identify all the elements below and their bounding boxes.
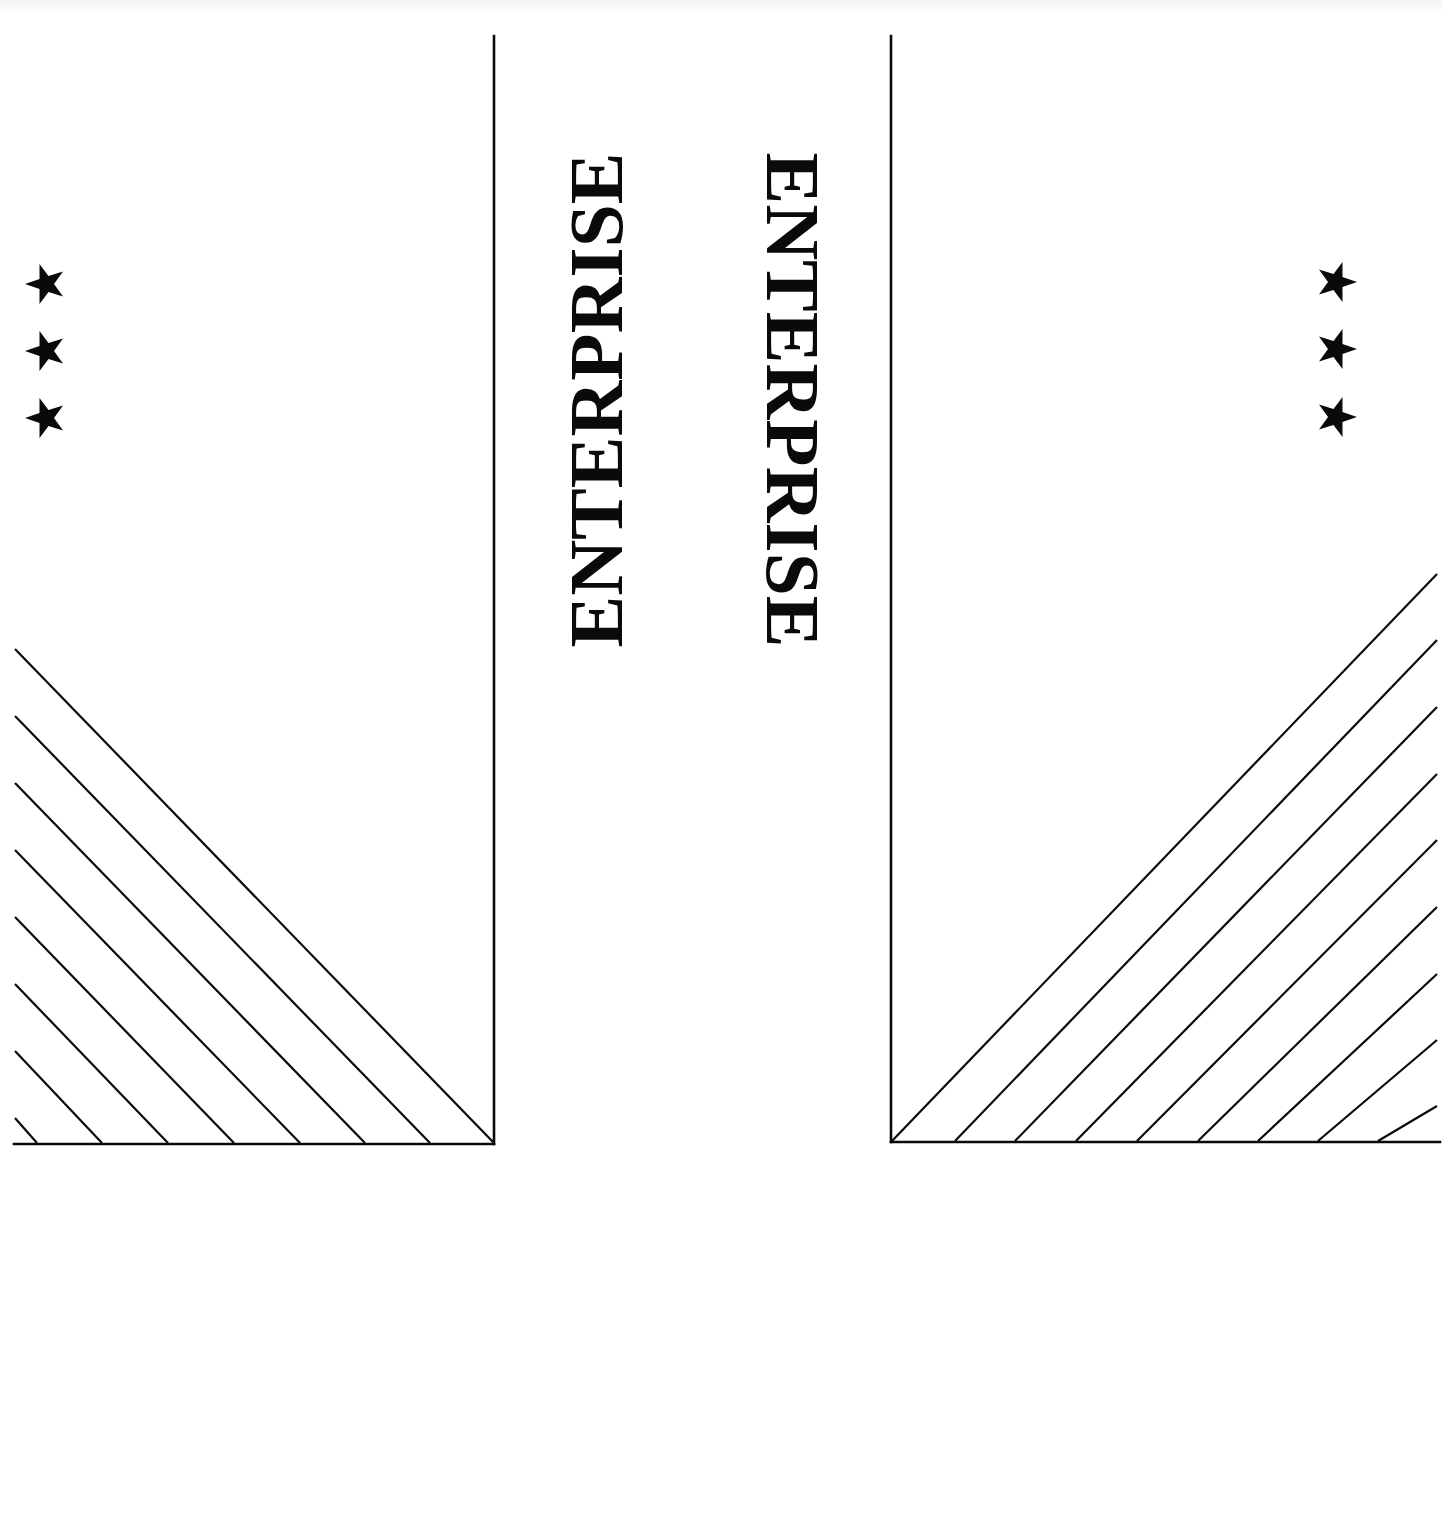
line-art [0,0,1442,1524]
star-icon [1319,262,1357,302]
star-icon [25,398,63,438]
left-stars [25,264,63,438]
right-panel-frame [891,36,1440,1142]
star-icon [1319,329,1357,369]
star-icon [25,264,63,304]
right-title: ENTERPRISE [755,153,831,648]
right-hatch-lines [892,574,1437,1141]
left-title: ENTERPRISE [558,153,634,648]
left-hatch-lines [15,649,494,1143]
star-icon [1319,397,1357,437]
right-stars [1319,262,1357,437]
star-icon [25,331,63,371]
left-panel-frame [14,36,494,1144]
